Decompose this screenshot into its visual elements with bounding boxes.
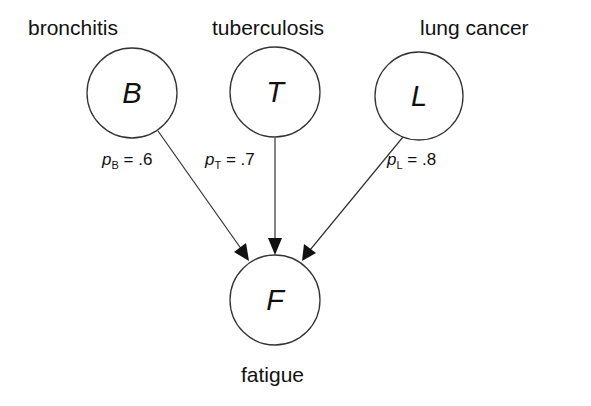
node-f-letter: F bbox=[255, 286, 295, 315]
node-t-letter: T bbox=[255, 78, 295, 107]
prob-subscript: T bbox=[214, 159, 221, 171]
node-l-letter: L bbox=[399, 82, 439, 111]
prob-value: = .6 bbox=[124, 150, 153, 169]
prob-b-label: pB = .6 bbox=[102, 151, 152, 171]
prob-t-label: pT = .7 bbox=[205, 151, 255, 171]
node-t-label: tuberculosis bbox=[212, 17, 324, 38]
node-b-label: bronchitis bbox=[28, 17, 118, 38]
prob-l-label: pL = .8 bbox=[387, 151, 436, 171]
prob-value: = .8 bbox=[407, 150, 436, 169]
prob-value: = .7 bbox=[226, 150, 255, 169]
node-f-label: fatigue bbox=[241, 364, 304, 385]
node-l-label: lung cancer bbox=[420, 17, 529, 38]
edge-t-to-f bbox=[268, 138, 282, 255]
prob-subscript: B bbox=[111, 159, 118, 171]
node-b-letter: B bbox=[112, 79, 152, 108]
diagram-canvas bbox=[0, 0, 591, 406]
prob-subscript: L bbox=[396, 159, 402, 171]
